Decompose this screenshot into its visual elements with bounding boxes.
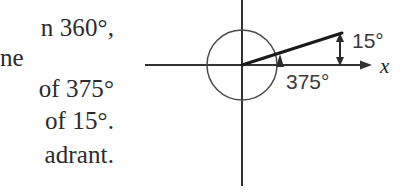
- terminal-ray: [242, 33, 342, 65]
- angle-diagram: 15° 375° x: [0, 0, 408, 193]
- figure-page: n 360°, ne of 375° of 15°. adrant. 1: [0, 0, 408, 193]
- label-angle-15: 15°: [352, 29, 384, 52]
- label-angle-375: 375°: [286, 70, 329, 93]
- x-axis-arrowhead-icon: [360, 61, 372, 70]
- label-x-axis: x: [379, 54, 390, 78]
